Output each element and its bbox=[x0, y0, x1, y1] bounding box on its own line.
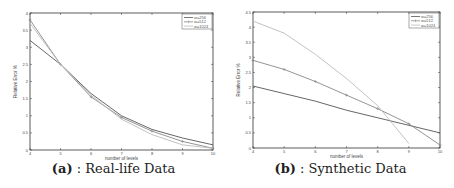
y-tick-label: 1.5 bbox=[22, 96, 28, 101]
y-tick-label: 2.5 bbox=[22, 62, 28, 67]
y-tick-label: 2.5 bbox=[245, 70, 251, 75]
y-tick-label: 2 bbox=[26, 79, 29, 84]
caption-a-label: (a) bbox=[52, 161, 73, 176]
y-tick-label: 1 bbox=[26, 113, 29, 118]
y-tick-label: 3 bbox=[249, 55, 252, 60]
y-tick-label: 4.5 bbox=[245, 10, 251, 15]
y-tick-label: 0.5 bbox=[22, 130, 28, 135]
y-tick-label: 4 bbox=[249, 25, 252, 30]
chart-b: 4567891000.511.522.533.544.5number of le… bbox=[227, 0, 454, 160]
chart-a: 4567891000.511.522.533.54number of level… bbox=[0, 0, 227, 160]
series-line bbox=[253, 21, 409, 143]
series-line bbox=[30, 20, 213, 148]
x-tick-label: 9 bbox=[181, 151, 184, 156]
series-line bbox=[253, 60, 440, 145]
caption-a-text: : Real-life Data bbox=[77, 161, 175, 176]
series-line bbox=[30, 40, 213, 144]
x-tick-label: 5 bbox=[59, 151, 62, 156]
x-tick-label: 9 bbox=[408, 149, 411, 154]
figure-b: 4567891000.511.522.533.544.5number of le… bbox=[227, 0, 454, 188]
y-tick-label: 1.5 bbox=[245, 100, 251, 105]
x-axis-label: number of levels bbox=[330, 154, 364, 159]
figure-a: 4567891000.511.522.533.54number of level… bbox=[0, 0, 227, 188]
x-tick-label: 6 bbox=[314, 149, 317, 154]
caption-b-label: (b) bbox=[275, 161, 296, 176]
y-tick-label: 0.5 bbox=[245, 130, 251, 135]
x-tick-label: 8 bbox=[377, 149, 380, 154]
x-axis-label: number of levels bbox=[105, 156, 139, 160]
legend-entry: w=1024 bbox=[421, 23, 436, 28]
y-tick-label: 4 bbox=[26, 11, 29, 16]
y-tick-label: 2 bbox=[249, 85, 252, 90]
caption-b-text: : Synthetic Data bbox=[300, 161, 406, 176]
series-line bbox=[30, 23, 213, 148]
x-tick-label: 8 bbox=[151, 151, 154, 156]
y-tick-label: 3 bbox=[26, 45, 29, 50]
y-tick-label: 1 bbox=[249, 115, 252, 120]
x-tick-label: 4 bbox=[252, 149, 255, 154]
x-tick-label: 4 bbox=[29, 151, 32, 156]
y-tick-label: 3.5 bbox=[245, 40, 251, 45]
x-tick-label: 5 bbox=[283, 149, 286, 154]
x-tick-label: 10 bbox=[211, 151, 216, 156]
x-tick-label: 10 bbox=[438, 149, 443, 154]
y-tick-label: 3.5 bbox=[22, 28, 28, 33]
y-axis-label: Relative Error % bbox=[13, 65, 18, 98]
legend-entry: w=1024 bbox=[194, 24, 209, 29]
plot-frame bbox=[30, 13, 213, 150]
x-tick-label: 6 bbox=[90, 151, 93, 156]
caption-a: (a) : Real-life Data bbox=[0, 161, 227, 176]
y-axis-label: Relative Error % bbox=[236, 64, 241, 97]
caption-b: (b) : Synthetic Data bbox=[227, 161, 454, 176]
